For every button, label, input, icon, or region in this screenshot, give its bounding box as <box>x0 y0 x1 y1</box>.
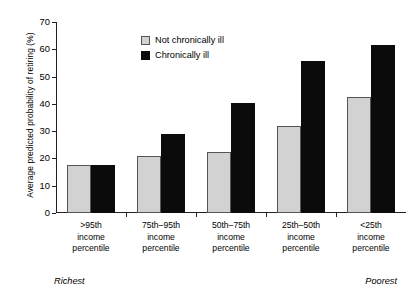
x-axis-category-label: <25thincomepercentile <box>329 220 413 255</box>
bar <box>137 156 161 213</box>
x-axis-tick-mark <box>266 213 267 217</box>
bar <box>91 165 115 213</box>
bar <box>161 134 185 213</box>
bar-chart-figure: Average predicted probability of retirin… <box>0 0 419 300</box>
y-axis-tick-label: 30 <box>40 126 50 135</box>
bar <box>301 61 325 213</box>
annotation-poorest: Poorest <box>365 276 397 286</box>
legend-label-chronically-ill: Chronically ill <box>155 51 209 60</box>
legend-swatch-icon-chronically-ill <box>141 51 150 60</box>
bar <box>371 45 395 213</box>
y-axis-tick-label: 10 <box>40 181 50 190</box>
x-axis-tick-mark <box>336 213 337 217</box>
x-axis-tick-mark <box>196 213 197 217</box>
y-axis-tick-label: 70 <box>40 17 50 26</box>
legend-item-not-chronically-ill: Not chronically ill <box>141 33 291 48</box>
bar <box>277 126 301 213</box>
y-axis-tick-label: 50 <box>40 72 50 81</box>
y-axis-tick-mark <box>52 213 56 214</box>
bar <box>231 103 255 213</box>
legend-label-not-chronically-ill: Not chronically ill <box>155 36 224 45</box>
x-axis-category-labels: >95thincomepercentile75th–95thincomeperc… <box>56 220 406 266</box>
bar-group <box>67 22 115 213</box>
legend-item-chronically-ill: Chronically ill <box>141 48 291 63</box>
bar <box>67 165 91 213</box>
y-axis-tick-label: 60 <box>40 45 50 54</box>
bar-group <box>347 22 395 213</box>
y-axis-tick-label: 20 <box>40 154 50 163</box>
y-axis-tick-label: 40 <box>40 99 50 108</box>
annotation-richest: Richest <box>54 276 85 286</box>
chart-legend: Not chronically ill Chronically ill <box>141 33 291 63</box>
y-axis-tick-label: 0 <box>45 208 50 217</box>
bar <box>347 97 371 213</box>
y-axis-title: Average predicted probability of retirin… <box>25 10 35 220</box>
legend-swatch-icon-not-chronically-ill <box>141 36 150 45</box>
x-axis-tick-mark <box>126 213 127 217</box>
bar <box>207 152 231 213</box>
